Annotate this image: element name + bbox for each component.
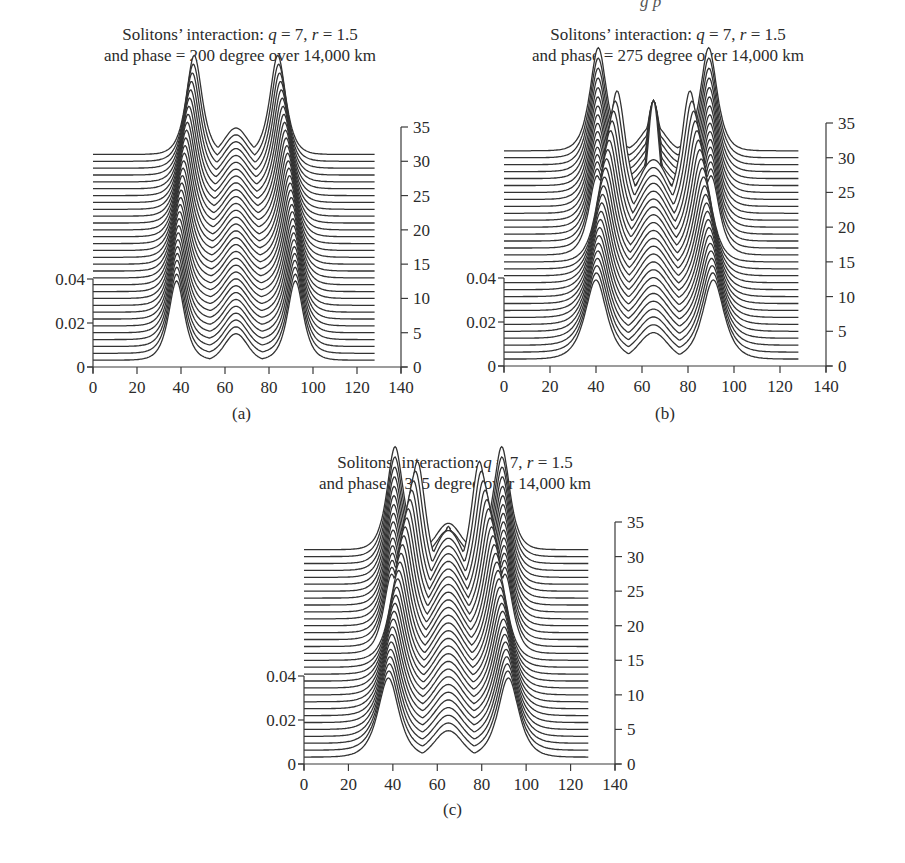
right-y-tick-label: 15 [627, 651, 644, 670]
panel-c-chart: 02040608010012014000.020.040510152025303… [0, 0, 905, 863]
right-y-tick-label: 10 [627, 686, 644, 705]
x-tick-label: 20 [340, 775, 357, 794]
left-y-tick-label: 0.04 [266, 667, 296, 686]
x-tick-label: 60 [429, 775, 446, 794]
left-y-tick-label: 0 [288, 755, 297, 774]
panel-c-label: (c) [443, 800, 462, 820]
right-y-tick-label: 0 [627, 755, 636, 774]
x-tick-label: 0 [300, 775, 309, 794]
x-tick-label: 100 [513, 775, 539, 794]
right-y-tick-label: 35 [627, 513, 644, 532]
right-y-tick-label: 30 [627, 548, 644, 567]
x-tick-label: 80 [473, 775, 490, 794]
x-tick-label: 120 [558, 775, 584, 794]
waterfall-traces [304, 447, 588, 759]
x-tick-label: 140 [602, 775, 628, 794]
right-y-tick-label: 5 [627, 720, 636, 739]
left-y-tick-label: 0.02 [266, 711, 296, 730]
right-y-tick-label: 20 [627, 617, 644, 636]
x-tick-label: 40 [384, 775, 401, 794]
right-y-tick-label: 25 [627, 582, 644, 601]
